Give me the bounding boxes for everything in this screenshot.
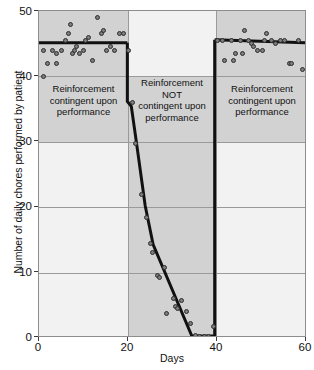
data-point (139, 192, 144, 197)
data-point (220, 38, 225, 43)
phase-note-2-line2: NOT (129, 89, 215, 101)
phase-note-3-line2: contingent upon (219, 95, 305, 107)
data-point (126, 48, 131, 53)
data-point (222, 58, 227, 63)
data-point (148, 241, 153, 246)
chart-figure: Number of daily chores performed by pati… (0, 0, 314, 370)
data-point (240, 51, 245, 56)
data-point (175, 306, 180, 311)
phase-note-1-line3: performance (41, 106, 126, 118)
data-point (41, 74, 46, 79)
data-point (81, 48, 86, 53)
data-point (211, 324, 216, 329)
y-tick-label-10: 10 (2, 266, 32, 278)
data-point (238, 38, 243, 43)
data-point (231, 58, 236, 63)
phase-note-2-line3: contingent upon (129, 100, 215, 112)
phase-note-2-line1: Reinforcement (129, 77, 215, 89)
phase-note-3-line3: performance (219, 106, 305, 118)
trend-lines (39, 11, 305, 336)
y-tick-label-40: 40 (2, 70, 32, 82)
data-point (233, 51, 238, 56)
data-point (289, 61, 294, 66)
x-axis-title: Days (38, 352, 306, 364)
data-point (68, 22, 73, 27)
data-point (262, 38, 267, 43)
data-point (95, 15, 100, 20)
data-point (90, 58, 95, 63)
data-point (133, 141, 138, 146)
phase-note-1: Reinforcement contingent upon performanc… (41, 83, 126, 118)
phase-note-3-line1: Reinforcement (219, 83, 305, 95)
data-point (104, 48, 109, 53)
data-point (59, 48, 64, 53)
phase-note-1-line2: contingent upon (41, 95, 126, 107)
y-tick-label-50: 50 (2, 5, 32, 17)
data-point (41, 48, 46, 53)
data-point (144, 215, 149, 220)
data-point (171, 296, 176, 301)
data-point (66, 31, 71, 36)
data-point (162, 265, 167, 270)
data-point (164, 311, 169, 316)
data-point (260, 48, 265, 53)
phase-note-1-line1: Reinforcement (41, 83, 126, 95)
data-point (184, 309, 189, 314)
data-point (229, 38, 234, 43)
plot-area: Reinforcement contingent upon performanc… (38, 10, 306, 337)
data-point (206, 334, 211, 337)
y-tick-label-30: 30 (2, 135, 32, 147)
phase-note-3: Reinforcement contingent upon performanc… (219, 83, 305, 118)
phase-note-2-line4: performance (129, 112, 215, 124)
data-point (296, 38, 301, 43)
y-tick-label-20: 20 (2, 200, 32, 212)
data-point (86, 35, 91, 40)
phase-note-2: Reinforcement NOT contingent upon perfor… (129, 77, 215, 123)
